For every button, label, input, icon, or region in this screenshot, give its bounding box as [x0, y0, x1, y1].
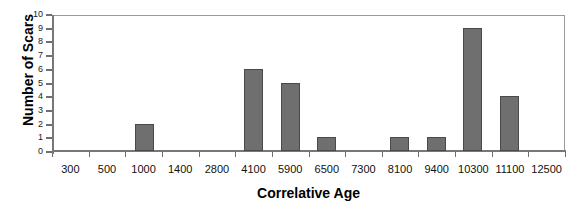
x-axis-tick — [309, 152, 310, 157]
x-axis-tick-labels: 3005001000140028004100590065007300810094… — [52, 163, 565, 176]
plot-area — [52, 15, 565, 152]
y-axis-tick-label: 1 — [0, 133, 43, 142]
x-axis-tick-label: 10300 — [455, 163, 492, 176]
x-axis-tick — [565, 152, 566, 157]
bar — [317, 137, 336, 151]
x-axis-tick — [492, 152, 493, 157]
x-axis-tick-label: 300 — [52, 163, 89, 176]
x-axis-tick-label: 4100 — [235, 163, 272, 176]
bar-slot — [309, 16, 346, 151]
x-axis-title: Correlative Age — [52, 185, 565, 201]
bar — [281, 83, 300, 152]
bar-slot — [345, 16, 382, 151]
y-axis-tick-label: 3 — [0, 106, 43, 115]
bar-slot — [53, 16, 90, 151]
bar-slot — [418, 16, 455, 151]
bar-slot — [491, 16, 528, 151]
bar — [244, 69, 263, 151]
bar-series — [53, 16, 564, 151]
x-axis-tick — [162, 152, 163, 157]
y-axis-tick-label: 7 — [0, 51, 43, 60]
x-axis-tick-label: 9400 — [418, 163, 455, 176]
bar-slot — [199, 16, 236, 151]
y-axis-tick-label: 0 — [0, 147, 43, 156]
x-axis-tick-label: 1000 — [125, 163, 162, 176]
bar — [135, 124, 154, 151]
y-axis-tick-label: 6 — [0, 65, 43, 74]
y-axis-tick-label: 9 — [0, 24, 43, 33]
x-axis-tick — [345, 152, 346, 157]
x-axis-tick — [418, 152, 419, 157]
x-axis-tick — [89, 152, 90, 157]
x-axis-tick — [382, 152, 383, 157]
bar — [390, 137, 409, 151]
x-axis-tick — [528, 152, 529, 157]
y-axis-tick-label: 2 — [0, 120, 43, 129]
bar-slot — [272, 16, 309, 151]
x-axis-tick — [272, 152, 273, 157]
bar — [463, 28, 482, 151]
x-axis-tick-label: 6500 — [308, 163, 345, 176]
y-axis-tick-label: 8 — [0, 37, 43, 46]
bar — [427, 137, 446, 151]
chart-figure: Number of Scars 012345678910 30050010001… — [0, 0, 586, 212]
bar-slot — [126, 16, 163, 151]
bar-slot — [236, 16, 273, 151]
bar-slot — [163, 16, 200, 151]
y-axis-tick-label: 4 — [0, 92, 43, 101]
x-axis-tick — [199, 152, 200, 157]
bar-slot — [90, 16, 127, 151]
bar-slot — [455, 16, 492, 151]
x-axis-tick — [235, 152, 236, 157]
y-axis-tick-label: 5 — [0, 79, 43, 88]
x-axis-tick-label: 8100 — [382, 163, 419, 176]
bar-slot — [528, 16, 565, 151]
x-axis-tick-label: 1400 — [162, 163, 199, 176]
x-axis-tick-label: 12500 — [528, 163, 565, 176]
bar-slot — [382, 16, 419, 151]
y-axis-tick-label: 10 — [0, 10, 43, 19]
x-axis-tick-label: 11100 — [492, 163, 529, 176]
x-axis-tick — [455, 152, 456, 157]
x-axis-tick-label: 500 — [89, 163, 126, 176]
x-axis-tick-label: 2800 — [199, 163, 236, 176]
x-axis-tick — [125, 152, 126, 157]
x-axis-tick-label: 5900 — [272, 163, 309, 176]
bar — [500, 96, 519, 151]
x-axis-tick-label: 7300 — [345, 163, 382, 176]
